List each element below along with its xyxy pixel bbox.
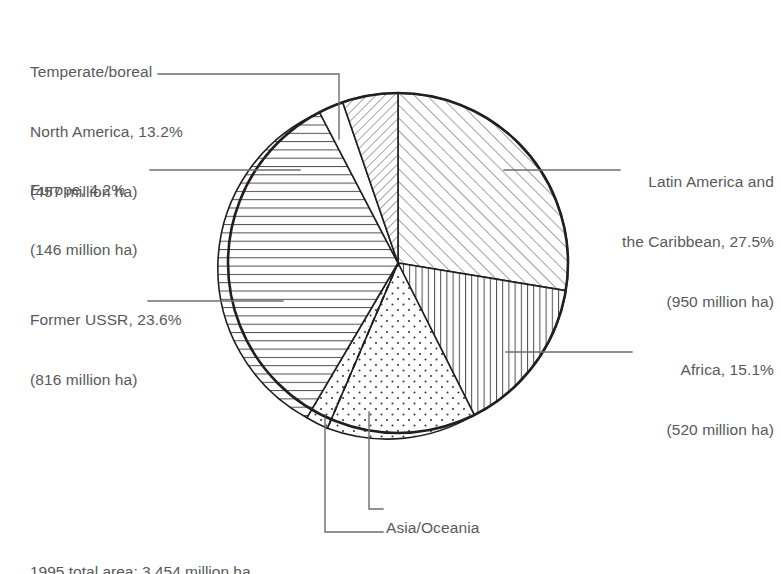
label-africa-line1: Africa, 15.1% [666, 360, 774, 380]
chart-footnote: 1995 total area: 3 454 million ha [30, 562, 251, 574]
label-former-ussr-line1: Former USSR, 23.6% [30, 310, 182, 330]
pie-slices [218, 93, 568, 439]
label-latin-america-line2: the Caribbean, 27.5% [622, 232, 774, 252]
label-north-america-line1: Temperate/boreal [30, 62, 183, 82]
label-former-ussr: Former USSR, 23.6% (816 million ha) [30, 270, 182, 430]
label-europe-line1: Europe, 4.2% [30, 180, 138, 200]
chart-canvas: Temperate/boreal North America, 13.2% (4… [0, 0, 781, 574]
label-europe-line2: (146 million ha) [30, 240, 138, 260]
label-africa: Africa, 15.1% (520 million ha) [666, 320, 774, 480]
label-asia-oceania-line1: Asia/Oceania [386, 518, 630, 538]
label-latin-america-line1: Latin America and [622, 172, 774, 192]
label-latin-america: Latin America and the Caribbean, 27.5% (… [622, 132, 774, 352]
label-africa-line2: (520 million ha) [666, 420, 774, 440]
pie-slice-latin-america[interactable] [398, 93, 568, 291]
label-former-ussr-line2: (816 million ha) [30, 370, 182, 390]
label-asia-oceania: Asia/Oceania Developing: 14.2% (491 mill… [386, 478, 630, 574]
label-latin-america-line3: (950 million ha) [622, 292, 774, 312]
label-north-america-line2: North America, 13.2% [30, 122, 183, 142]
